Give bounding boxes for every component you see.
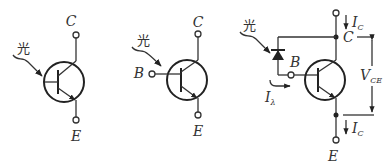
base-label: B: [133, 65, 144, 81]
emitter-node: [334, 113, 339, 118]
light-label: 光: [17, 41, 30, 56]
collector-label: C: [66, 13, 77, 29]
base-label: B: [289, 54, 300, 70]
base-terminal: [288, 72, 294, 78]
light-arrow-icon: [132, 47, 161, 66]
light-label: 光: [243, 18, 256, 33]
circuit-1: C E 光: [13, 13, 84, 144]
collector-terminal: [195, 31, 201, 37]
emitter-arrow: [58, 88, 75, 100]
emitter-terminal: [333, 137, 339, 143]
photo-current-label: Iλ: [264, 89, 276, 107]
collector-terminal-top: [333, 10, 339, 16]
emitter-terminal: [73, 117, 79, 123]
light-arrow-icon: [240, 32, 270, 53]
collector-label: C: [193, 14, 204, 30]
collector-terminal: [73, 32, 79, 38]
light-label: 光: [137, 33, 150, 48]
emitter-label: E: [192, 123, 203, 139]
photo-current-arrow: [270, 80, 290, 86]
base-terminal: [149, 71, 155, 77]
light-arrow-icon: [13, 55, 42, 76]
phototransistor-diagram: C E 光 C B E 光 IC C: [0, 0, 390, 168]
emitter-label: E: [70, 128, 81, 144]
photodiode-icon: [272, 50, 284, 60]
emitter-label: E: [327, 148, 338, 164]
collector-label: C: [343, 29, 354, 45]
circuit-2: C B E 光: [132, 14, 207, 139]
emitter-arrow: [181, 86, 197, 98]
collector-current-label-bottom: IC: [351, 120, 364, 138]
transistor-body: [305, 60, 345, 100]
emitter-arrow: [318, 86, 335, 98]
transistor-body: [167, 60, 207, 100]
emitter-terminal: [195, 112, 201, 118]
circuit-3: IC C B IC E VCE Iλ 光: [240, 10, 386, 164]
